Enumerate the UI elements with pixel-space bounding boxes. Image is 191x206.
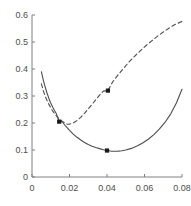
chart-figure: 00.10.20.30.40.50.600.020.040.060.08 [0,0,191,206]
data-markers-group [57,89,110,153]
dashed-curve [41,21,182,124]
x-tick-label: 0 [29,183,34,193]
y-tick-label: 0.4 [0,64,28,74]
plot-canvas [0,0,191,206]
x-tick-label: 0.02 [61,183,79,193]
marker-dashed-point [106,89,110,93]
x-tick-label: 0.04 [98,183,116,193]
y-tick-label: 0.5 [0,37,28,47]
y-tick-label: 0.2 [0,118,28,128]
marker-crossing [57,120,61,124]
x-tick-label: 0.08 [173,183,191,193]
y-tick-label: 0.1 [0,145,28,155]
y-tick-label: 0 [0,172,28,182]
axes-group [32,15,182,177]
x-tick-label: 0.06 [136,183,154,193]
y-tick-label: 0.3 [0,91,28,101]
marker-solid-minimum [105,148,109,152]
data-series-group [41,21,182,151]
y-tick-label: 0.6 [0,10,28,20]
